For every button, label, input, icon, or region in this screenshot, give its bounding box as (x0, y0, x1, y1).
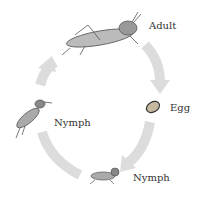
arrow-egg-to-nymph (120, 122, 150, 172)
label-adult: Adult (149, 20, 176, 31)
arrow-nymph-to-adult (38, 56, 56, 85)
label-nymph-large: Nymph (54, 117, 91, 128)
arrow-nymph-to-nymph (42, 132, 80, 175)
life-cycle-diagram: Adult Egg Nymph Nymph (0, 0, 201, 210)
egg-illustration (144, 99, 161, 115)
label-nymph-small: Nymph (133, 172, 170, 183)
arrow-adult-to-egg (145, 45, 170, 94)
nymph-small-illustration (90, 168, 119, 184)
label-egg: Egg (170, 102, 190, 113)
adult-grasshopper-illustration (62, 12, 141, 55)
